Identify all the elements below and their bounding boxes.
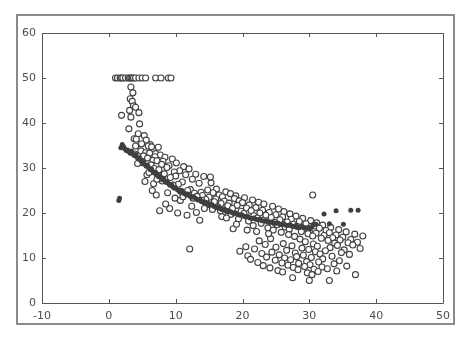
x-axis-tick-label: 50 <box>423 310 463 321</box>
y-axis-tick-label: 60 <box>8 27 36 38</box>
x-axis-tick-label: 0 <box>89 310 129 321</box>
x-axis-tick-label: 30 <box>289 310 329 321</box>
y-axis-tick-label: 30 <box>8 162 36 173</box>
y-axis-tick-label: 0 <box>8 297 36 308</box>
x-axis-tick-label: 40 <box>356 310 396 321</box>
x-axis-tick-label: -10 <box>22 310 62 321</box>
y-axis-tick-label: 40 <box>8 117 36 128</box>
y-axis-tick-label: 10 <box>8 252 36 263</box>
scatter-plot-canvas <box>0 0 469 340</box>
y-axis-tick-label: 20 <box>8 207 36 218</box>
y-axis-tick-label: 50 <box>8 72 36 83</box>
x-axis-tick-label: 20 <box>223 310 263 321</box>
x-axis-tick-label: 10 <box>156 310 196 321</box>
